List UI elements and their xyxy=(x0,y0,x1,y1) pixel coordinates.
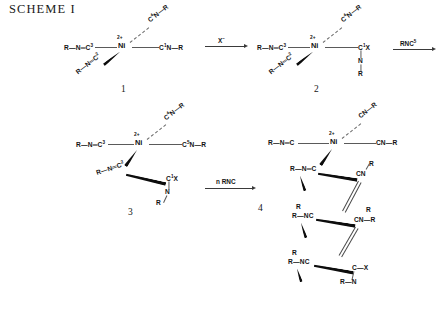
bond-ni-left-4 xyxy=(298,143,329,144)
bond-ni-c4-2 xyxy=(323,27,343,43)
chain-unit-d-r: R xyxy=(366,206,371,213)
charge-label-4: 2+ xyxy=(329,131,334,136)
ligand-label-2-3: R—N═C2 xyxy=(95,159,125,176)
bond-ni-chain-4 xyxy=(319,148,334,167)
structure-number-3: 3 xyxy=(128,207,133,217)
ligand-n-3: N xyxy=(165,188,170,195)
ligand-label-3-3: R—N═C3 xyxy=(76,140,105,148)
bond-c2-c1-3 xyxy=(126,173,167,186)
bond-ni-right-4 xyxy=(344,143,376,144)
ligand-label-4-2: C4N—R xyxy=(338,2,362,23)
structure-number-1: 1 xyxy=(121,84,126,94)
chain-unit-b-label: CN xyxy=(356,170,366,177)
chain-link-de xyxy=(339,227,359,257)
bond-ni-c1-2 xyxy=(325,47,358,48)
bond-n-r-3 xyxy=(163,195,167,203)
chain-terminal-nr: R—N xyxy=(340,278,357,285)
ligand-label-2-1: R—N═C2 xyxy=(73,51,101,75)
chain-stub-e xyxy=(295,268,302,282)
ligand-label-5-3: C5N—R xyxy=(182,140,206,148)
bond-ni-c3-2 xyxy=(288,47,310,48)
ligand-r-2: R xyxy=(358,70,363,77)
metal-center-ni-1: Ni xyxy=(118,41,125,50)
ligand-label-3-2: R—N═C3 xyxy=(257,43,286,51)
structure-number-2: 2 xyxy=(314,84,319,94)
bond-ni-c3-1 xyxy=(95,47,117,48)
bond-ni-c4-3 xyxy=(147,124,167,140)
chain-unit-e-r: R xyxy=(292,249,297,256)
chain-unit-c-r: R xyxy=(296,203,301,210)
chain-stub-a xyxy=(298,175,306,191)
chain-unit-c-label: R—NC xyxy=(292,212,313,219)
metal-center-ni-3: Ni xyxy=(135,138,142,147)
ligand-label-4-3: C4N—R xyxy=(161,100,185,121)
bond-ni-c5-3 xyxy=(149,144,182,145)
arrow-label-x-minus: X− xyxy=(218,36,225,44)
bond-ni-c3-3 xyxy=(108,144,134,145)
bond-ni-upper-4 xyxy=(342,123,362,139)
charge-label-3: 2+ xyxy=(134,132,139,137)
chain-bond-a xyxy=(318,172,358,182)
charge-label-2: 2+ xyxy=(310,35,315,40)
bond-ni-c1-1 xyxy=(132,47,159,48)
ligand-label-3-1: R—N═C3 xyxy=(64,43,93,51)
ligand-label-2-2: R—N═C2 xyxy=(266,51,294,75)
bond-ni-c4-1 xyxy=(130,27,150,43)
structure-number-4: 4 xyxy=(258,203,263,213)
ligand-label-4-1: C4N—R xyxy=(145,2,169,23)
charge-label-1: 2+ xyxy=(117,35,122,40)
ligand-label-left-4: R—N═C xyxy=(268,139,295,146)
chain-unit-d-label: CN—R xyxy=(354,216,375,223)
chain-bond-e xyxy=(314,264,354,274)
ligand-label-upper-4: CN—R xyxy=(357,101,378,120)
chain-link-bc xyxy=(342,181,361,213)
bond-ni-c2-1 xyxy=(103,50,121,66)
page-title: SCHEME I xyxy=(9,2,76,17)
metal-center-ni-4: Ni xyxy=(330,137,337,146)
arrow-label-rnc5: RNC5 xyxy=(400,39,416,47)
ligand-n-2: N xyxy=(358,57,363,64)
bond-ni-c2-2 xyxy=(296,50,314,66)
chain-unit-e-label: R—NC xyxy=(288,258,309,265)
chain-unit-a-label: R—N═C xyxy=(290,165,317,172)
chain-terminal-label: C—X xyxy=(352,264,368,271)
bond-ni-c2-3 xyxy=(124,149,139,168)
chain-stub-c xyxy=(299,222,307,238)
ligand-label-1-1: C1N—R xyxy=(159,43,183,51)
ligand-r-3: R xyxy=(156,199,161,206)
ligand-label-right-4: CN—R xyxy=(376,139,397,146)
metal-center-ni-2: Ni xyxy=(311,41,318,50)
chain-bond-c xyxy=(316,218,356,228)
arrow-label-nrnc: n RNC xyxy=(216,178,236,185)
